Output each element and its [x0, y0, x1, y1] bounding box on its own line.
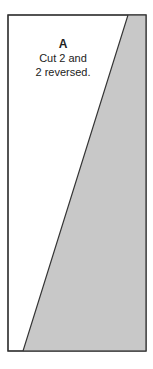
piece-label: A Cut 2 and 2 reversed. [28, 38, 98, 79]
instruction-line-2: 2 reversed. [28, 65, 98, 79]
instruction-line-1: Cut 2 and [28, 51, 98, 65]
piece-letter: A [28, 38, 98, 51]
